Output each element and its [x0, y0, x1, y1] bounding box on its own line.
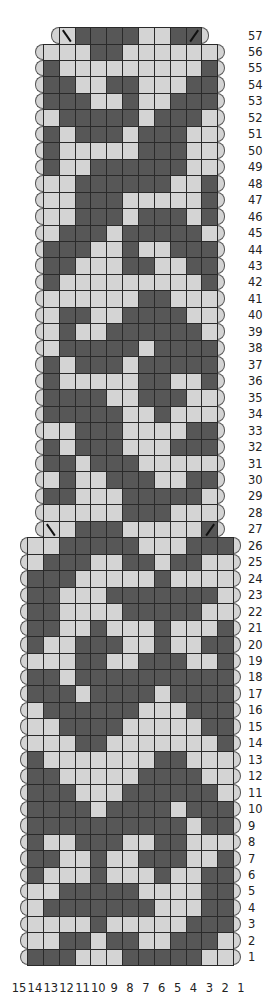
chart-cell: [186, 488, 203, 506]
row-number-label: 55: [248, 60, 263, 76]
chart-cell: [75, 784, 92, 802]
row-number-label: 43: [248, 258, 263, 274]
chart-cell: [186, 718, 203, 736]
chart-cell: [154, 307, 171, 325]
chart-cell: [122, 76, 139, 94]
chart-cell: [75, 834, 92, 852]
chart-cell: [43, 323, 60, 341]
chart-cell: [201, 850, 218, 868]
chart-cell: [170, 570, 187, 588]
column-number-label: 4: [185, 981, 201, 995]
chart-cell: [122, 570, 139, 588]
knitting-chart: 5756555453525150494847464544434241403938…: [0, 0, 278, 995]
chart-cell: [106, 636, 123, 654]
chart-cell: [27, 669, 44, 687]
chart-cell: [154, 570, 171, 588]
row-number-label: 32: [248, 439, 263, 455]
chart-cell: [138, 620, 155, 638]
chart-cell: [106, 537, 123, 555]
chart-cell: [154, 422, 171, 440]
chart-cell: [106, 702, 123, 720]
chart-cell: [90, 159, 107, 177]
chart-cell: [186, 603, 203, 621]
chart-cell: [90, 356, 107, 374]
chart-cell: [75, 587, 92, 605]
chart-cell: [122, 883, 139, 901]
chart-cell: [186, 373, 203, 391]
chart-cell: [170, 340, 187, 358]
chart-cell: [90, 76, 107, 94]
chart-cell: [106, 735, 123, 753]
chart-cell: [59, 916, 76, 934]
chart-cell: [138, 603, 155, 621]
chart-cell: [43, 142, 60, 160]
chart-cell: [106, 653, 123, 671]
chart-cell: [170, 653, 187, 671]
chart-cell: [106, 488, 123, 506]
chart-cell: [43, 587, 60, 605]
chart-cell: [27, 751, 44, 769]
chart-cell: [27, 817, 44, 835]
chart-cell: [170, 225, 187, 243]
row-number-label: 24: [248, 571, 263, 587]
chart-cell: [154, 290, 171, 308]
chart-cell: [43, 899, 60, 917]
chart-cell: [90, 735, 107, 753]
chart-cell: [201, 257, 218, 275]
chart-cell: [106, 406, 123, 424]
chart-cell: [106, 587, 123, 605]
chart-cell: [75, 356, 92, 374]
chart-cell: [43, 636, 60, 654]
chart-cell: [186, 142, 203, 160]
chart-cell: [106, 126, 123, 144]
chart-cell: [122, 422, 139, 440]
chart-cell: [170, 257, 187, 275]
chart-cell: [154, 702, 171, 720]
chart-cell: [201, 208, 218, 226]
chart-cell: [90, 850, 107, 868]
chart-cell: [138, 323, 155, 341]
chart-cell: [90, 126, 107, 144]
chart-cell: [59, 175, 76, 193]
chart-cell: [170, 883, 187, 901]
chart-cell: [90, 702, 107, 720]
chart-cell: [122, 455, 139, 473]
chart-cell: [138, 751, 155, 769]
chart-cell: [170, 192, 187, 210]
row-number-label: 51: [248, 126, 263, 142]
chart-cell: [106, 883, 123, 901]
row-number-label: 38: [248, 340, 263, 356]
column-number-label: 11: [75, 981, 91, 995]
chart-cell: [201, 537, 218, 555]
chart-cell: [90, 208, 107, 226]
chart-cell: [170, 290, 187, 308]
chart-cell: [43, 735, 60, 753]
chart-cell: [90, 817, 107, 835]
chart-cell: [201, 340, 218, 358]
chart-cell: [138, 175, 155, 193]
chart-cell: [122, 159, 139, 177]
chart-cell: [154, 44, 171, 62]
column-number-label: 12: [59, 981, 75, 995]
chart-cell: [170, 603, 187, 621]
chart-cell: [170, 916, 187, 934]
chart-cell: [201, 653, 218, 671]
chart-cell: [106, 290, 123, 308]
chart-cell: [59, 257, 76, 275]
chart-cell: [154, 537, 171, 555]
chart-cell: [75, 126, 92, 144]
row-number-label: 20: [248, 637, 263, 653]
chart-cell: [75, 718, 92, 736]
chart-cell: [27, 949, 44, 967]
chart-cell: [106, 932, 123, 950]
chart-cell: [186, 257, 203, 275]
chart-cell: [90, 93, 107, 111]
chart-cell: [138, 554, 155, 572]
chart-cell: [170, 949, 187, 967]
chart-cell: [170, 356, 187, 374]
column-number-label: 6: [154, 981, 170, 995]
chart-cell: [122, 932, 139, 950]
chart-cell: [154, 883, 171, 901]
row-number-label: 41: [248, 291, 263, 307]
chart-cell: [27, 653, 44, 671]
